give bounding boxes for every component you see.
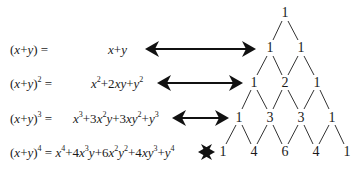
triangle-cell: 3: [264, 111, 276, 125]
triangle-cell: 4: [310, 145, 322, 159]
triangle-cell: 6: [279, 145, 291, 159]
triangle-cell: 1: [326, 111, 338, 125]
triangle-cell: 1: [341, 145, 353, 159]
triangle-cell: 2: [279, 76, 291, 90]
triangle-cell: 1: [295, 41, 307, 55]
triangle-cell: 1: [217, 145, 229, 159]
triangle-cell: 4: [248, 145, 260, 159]
triangle-cell: 1: [311, 76, 323, 90]
triangle-cell: 1: [233, 111, 245, 125]
triangle-cell: 3: [295, 111, 307, 125]
triangle-cell: 1: [248, 76, 260, 90]
triangle-cell: 1: [279, 6, 291, 20]
triangle-cell: 1: [264, 41, 276, 55]
diagram-lines: [0, 0, 362, 169]
